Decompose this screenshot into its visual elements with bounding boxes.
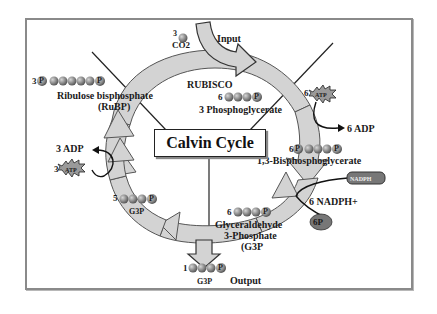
atp-left-count: 3 [54,164,59,175]
rubp-count: 3 [32,76,37,87]
g3p-count: 6 [227,207,232,218]
phosphate-label: P [254,91,259,102]
phosphate-label: P [39,75,44,86]
output-count: 1 [183,263,188,274]
g3p-abbr: (G3P [241,241,263,252]
rubp-molecule [37,76,105,86]
rubisco-label: RUBISCO [187,79,233,90]
bpg-name: 1,3-Bisphosphoglycerate [257,155,361,166]
pga-name: 3 Phosphoglycerate [199,104,282,115]
g3p-name: Glyceraldehyde [215,219,282,230]
phosphate-label: P [263,206,268,217]
co2-label: CO2 [172,40,190,51]
phosphate-label: P [295,143,300,154]
atp-right-count: 6 [304,88,309,99]
g3p-recycled-count: 5 [113,193,118,204]
adp-left-label: 3 ADP [56,143,84,154]
atp-right-label: ATP [315,90,327,101]
output-label: Output [230,275,261,286]
nadph-label: NADPH [350,174,371,185]
rubp-name: Ribulose bisphosphate [57,90,153,101]
phosphate-label: P [218,262,223,273]
pga-count: 6 [218,92,223,103]
calvin-cycle-title-box: Calvin Cycle [154,129,266,157]
output-molecule: G3P [197,276,212,287]
rubp-abbr: (RuBP) [98,101,130,112]
phosphate-label: P [334,143,339,154]
phosphate-label: P [149,193,154,204]
bpg-count: 6 [289,144,294,155]
g3p-recycled-name: G3P [129,206,144,217]
co2-text: CO2 [172,40,190,50]
atp-left-label: ATP [65,165,77,176]
pi-label: 6P [313,217,323,228]
co2-count: 3 [173,28,177,39]
nadp-plus-label: 6 NADPH+ [309,196,358,207]
phosphate-label: P [97,75,102,86]
calvin-cycle-title: Calvin Cycle [166,134,254,152]
adp-right-label: 6 ADP [347,123,375,134]
input-label: Input [217,33,241,44]
g3p-name2: 3-Phosphate [224,230,277,241]
